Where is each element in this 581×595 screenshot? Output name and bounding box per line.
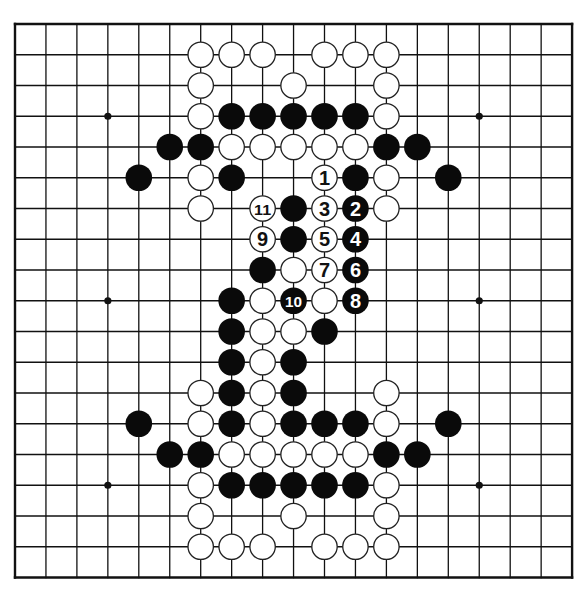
white-stone[interactable] bbox=[250, 134, 275, 159]
white-stone[interactable] bbox=[250, 534, 275, 559]
white-stone[interactable] bbox=[374, 411, 399, 436]
black-stone[interactable] bbox=[218, 318, 245, 345]
black-stone[interactable] bbox=[249, 103, 276, 130]
white-stone-move-9[interactable]: 9 bbox=[250, 227, 275, 252]
black-stone[interactable] bbox=[342, 164, 369, 191]
black-stone-move-2[interactable]: 2 bbox=[342, 195, 369, 222]
white-stone[interactable] bbox=[188, 534, 213, 559]
black-stone[interactable] bbox=[311, 472, 338, 499]
black-stone[interactable] bbox=[373, 134, 400, 161]
black-stone[interactable] bbox=[342, 472, 369, 499]
white-stone[interactable] bbox=[188, 196, 213, 221]
black-stone[interactable] bbox=[218, 380, 245, 407]
white-stone[interactable] bbox=[281, 319, 306, 344]
white-stone[interactable] bbox=[188, 380, 213, 405]
black-stone[interactable] bbox=[280, 226, 307, 253]
black-stone[interactable] bbox=[404, 134, 431, 161]
black-stone[interactable] bbox=[280, 349, 307, 376]
black-stone[interactable] bbox=[280, 410, 307, 437]
black-stone[interactable] bbox=[218, 103, 245, 130]
white-stone[interactable] bbox=[188, 165, 213, 190]
white-stone[interactable] bbox=[250, 288, 275, 313]
white-stone[interactable] bbox=[312, 42, 337, 67]
black-stone[interactable] bbox=[342, 103, 369, 130]
black-stone[interactable] bbox=[249, 472, 276, 499]
black-stone-move-10[interactable]: 10 bbox=[280, 287, 307, 314]
black-stone[interactable] bbox=[156, 134, 183, 161]
black-stone[interactable] bbox=[249, 257, 276, 284]
white-stone[interactable] bbox=[343, 534, 368, 559]
move-number: 2 bbox=[350, 198, 361, 220]
black-stone[interactable] bbox=[280, 380, 307, 407]
white-stone[interactable] bbox=[281, 257, 306, 282]
white-stone[interactable] bbox=[281, 442, 306, 467]
black-stone[interactable] bbox=[218, 349, 245, 376]
white-stone[interactable] bbox=[250, 42, 275, 67]
white-stone-move-5[interactable]: 5 bbox=[312, 227, 337, 252]
white-stone[interactable] bbox=[374, 503, 399, 528]
white-stone[interactable] bbox=[374, 380, 399, 405]
black-stone[interactable] bbox=[280, 472, 307, 499]
white-stone[interactable] bbox=[250, 319, 275, 344]
star-point-icon bbox=[476, 297, 483, 304]
black-stone[interactable] bbox=[311, 318, 338, 345]
black-stone[interactable] bbox=[156, 441, 183, 468]
black-stone[interactable] bbox=[218, 164, 245, 191]
white-stone[interactable] bbox=[250, 411, 275, 436]
black-stone[interactable] bbox=[373, 441, 400, 468]
white-stone[interactable] bbox=[374, 165, 399, 190]
go-board-grid[interactable]: 1113295476108 bbox=[0, 0, 581, 595]
white-stone-move-7[interactable]: 7 bbox=[312, 257, 337, 282]
white-stone[interactable] bbox=[188, 73, 213, 98]
black-stone[interactable] bbox=[187, 134, 214, 161]
white-stone[interactable] bbox=[219, 42, 244, 67]
white-stone[interactable] bbox=[374, 534, 399, 559]
black-stone[interactable] bbox=[187, 441, 214, 468]
black-stone[interactable] bbox=[311, 103, 338, 130]
white-stone[interactable] bbox=[374, 42, 399, 67]
white-stone-move-3[interactable]: 3 bbox=[312, 196, 337, 221]
black-stone-move-8[interactable]: 8 bbox=[342, 287, 369, 314]
white-stone[interactable] bbox=[281, 503, 306, 528]
white-stone[interactable] bbox=[312, 534, 337, 559]
white-stone[interactable] bbox=[250, 380, 275, 405]
white-stone[interactable] bbox=[343, 134, 368, 159]
white-stone-move-11[interactable]: 11 bbox=[250, 196, 275, 221]
white-stone[interactable] bbox=[188, 42, 213, 67]
black-stone[interactable] bbox=[218, 287, 245, 314]
black-stone[interactable] bbox=[280, 103, 307, 130]
white-stone[interactable] bbox=[219, 134, 244, 159]
white-stone[interactable] bbox=[188, 104, 213, 129]
white-stone[interactable] bbox=[188, 411, 213, 436]
white-stone[interactable] bbox=[374, 104, 399, 129]
black-stone[interactable] bbox=[126, 410, 153, 437]
black-stone[interactable] bbox=[311, 410, 338, 437]
black-stone-move-4[interactable]: 4 bbox=[342, 226, 369, 253]
black-stone[interactable] bbox=[218, 410, 245, 437]
white-stone[interactable] bbox=[219, 534, 244, 559]
black-stone[interactable] bbox=[126, 164, 153, 191]
white-stone[interactable] bbox=[188, 503, 213, 528]
white-stone[interactable] bbox=[250, 442, 275, 467]
white-stone-move-1[interactable]: 1 bbox=[312, 165, 337, 190]
white-stone[interactable] bbox=[343, 442, 368, 467]
white-stone[interactable] bbox=[343, 42, 368, 67]
white-stone[interactable] bbox=[374, 73, 399, 98]
black-stone[interactable] bbox=[404, 441, 431, 468]
white-stone[interactable] bbox=[188, 473, 213, 498]
black-stone[interactable] bbox=[435, 164, 462, 191]
white-stone[interactable] bbox=[374, 196, 399, 221]
white-stone[interactable] bbox=[250, 350, 275, 375]
black-stone-move-6[interactable]: 6 bbox=[342, 257, 369, 284]
white-stone[interactable] bbox=[374, 473, 399, 498]
black-stone[interactable] bbox=[280, 195, 307, 222]
black-stone[interactable] bbox=[342, 410, 369, 437]
white-stone[interactable] bbox=[281, 73, 306, 98]
white-stone[interactable] bbox=[312, 442, 337, 467]
white-stone[interactable] bbox=[312, 288, 337, 313]
black-stone[interactable] bbox=[435, 410, 462, 437]
black-stone[interactable] bbox=[218, 472, 245, 499]
white-stone[interactable] bbox=[312, 134, 337, 159]
white-stone[interactable] bbox=[219, 442, 244, 467]
white-stone[interactable] bbox=[281, 134, 306, 159]
